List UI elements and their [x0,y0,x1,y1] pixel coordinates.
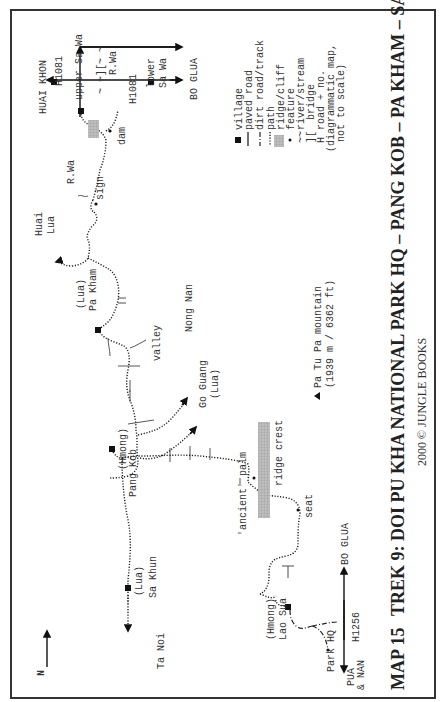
village-upper-sa-wa [78,108,84,114]
label-ridge-crest: ridge crest [274,420,285,486]
label-go-guang-2: (Lua) [210,369,221,399]
ancient-palm-dot [253,477,256,480]
legend-note-2: not to scale) [336,64,347,142]
label-pa-kham-2: Pa Kham [88,269,99,311]
label-h1256: H1256 [351,612,362,642]
path-go-guang [140,430,194,459]
dam-feature-dot [108,129,111,132]
label-ta-noi: Ta Noi [156,633,167,669]
label-mountain-2: (1939 m / 6362 ft) [325,280,336,388]
legend-label-paved-road: paved road [244,70,255,130]
label-sa-khun-2: Sa Khun [148,556,159,598]
label-huai-lua-2: Lua [46,216,57,234]
sign-feature-dot [94,202,97,205]
label-sa-khun-1: (Lua) [134,566,145,596]
label-lao-sua-2: Lao Sua [278,598,289,640]
seat-feature-dot [297,509,300,512]
label-huai-khon: HUAI KHON [38,60,49,114]
label-r-wa-top: R.Wa [108,51,119,75]
label-lower-sa-wa-1: lower [146,58,157,88]
map-frame [11,10,435,698]
label-mountain-1: Pa Tu Pa mountain [313,286,324,388]
label-go-guang-1: Go Guang [198,360,209,408]
label-bo-glua-bottom: BO GLUA [340,523,351,565]
mountain-triangle-icon [314,392,320,400]
label-sign: sign [95,176,106,200]
legend-label-dirt-road: dirt road/track [255,40,266,130]
map-number: MAP 15 [388,628,408,691]
label-upper-sa-wa: upper Sa Wa [74,34,85,100]
label-bridge-top: ~ ~][~ ~ [96,46,107,94]
label-valley: valley [152,325,163,361]
label-h1081-b: H1081 [128,74,139,104]
label-dam: dam [117,127,128,145]
label-bo-glua-top: BO GLUA [189,58,200,100]
ridge-crest [258,422,270,518]
label-pang-kob-2: Pang Kob [128,449,139,497]
label-park-hq: Park HQ [326,630,337,672]
path-sign-huai-lua [58,200,97,266]
label-north: N [36,670,47,676]
label-lower-sa-wa-2: Sa Wa [158,58,169,88]
path-nong-nan [138,402,186,435]
copyright: 2000 © JUNGLE BOOKS [415,338,429,466]
label-ancient-palm: 'ancient' palm [238,452,249,536]
legend-village-symbol [235,137,241,143]
label-pua-nan-2: & NAN [356,660,367,690]
label-r-wa-mid: R.Wa [66,160,77,184]
ridge-cliff-sa-wa [88,120,99,138]
label-lao-sua-1: (Hmong) [266,598,277,640]
legend-feature-symbol [289,139,292,142]
label-pa-kham-1: (Lua) [76,279,87,309]
village-sa-khun [125,585,131,591]
label-seat: seat [304,494,315,518]
legend-ridge-symbol [274,135,284,147]
map-title: TREK 9: DOI PU KHA NATIONAL PARK HQ – PA… [388,0,408,616]
label-nong-nan: Nong Nan [184,284,195,332]
label-huai-lua-1: Huai [34,212,45,236]
label-h1081-a: H1081 [54,56,65,86]
legend [235,132,292,147]
trek-map: HUAI KHON H1081 upper Sa Wa ~ ~][~ ~ R.W… [0,0,440,702]
dirt-road-lao-sua-hq [290,610,312,628]
